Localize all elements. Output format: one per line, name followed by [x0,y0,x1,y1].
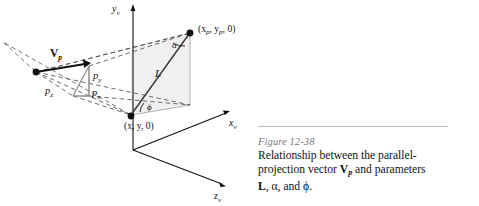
projection-vector-label: Vp [50,47,62,62]
caption-line-2-suffix: and parameters [352,163,425,176]
projection-vector-shaft [36,64,85,72]
z-axis-arrow [219,182,226,187]
figure-page: yv xv zv (xp, yp, 0) (x, y, 0) Vp py px [0,0,479,206]
x-axis-label: xv [228,117,237,131]
length-L-label: L [154,67,161,79]
y-axis-arrow [131,4,136,11]
component-pz-label: pz [44,85,53,99]
caption-text: Relationship between the parallel- proje… [258,149,454,195]
figure-caption: Figure 12-38 Relationship between the pa… [258,126,454,195]
projected-point-label: (xp, yp, 0) [198,23,235,36]
projected-point-dot [187,30,194,37]
caption-line-2-prefix: projection vector [258,163,340,176]
vector-tail-dot [33,69,40,76]
component-py-label: py [92,70,102,84]
component-triangle-hyp [73,66,89,96]
z-axis-line [133,150,222,184]
source-point-label: (x, y, 0) [124,120,154,132]
caption-divider [258,126,448,127]
angle-alpha-label: α [172,40,177,50]
caption-figure-number: Figure 12-38 [258,135,454,148]
caption-vector-symbol: V [340,163,348,176]
angle-phi-label: ϕ [147,102,152,112]
x-axis-line [133,113,226,150]
z-axis-label: zv [213,190,222,204]
y-axis-label: yv [111,3,120,17]
caption-param-L: L [258,180,266,193]
projection-vector-arrowhead [83,60,91,68]
source-point-dot [128,113,135,120]
component-px-label: px [91,87,101,101]
parallel-projection-diagram: yv xv zv (xp, yp, 0) (x, y, 0) Vp py px [0,0,250,206]
caption-line-3-suffix: , α, and ϕ. [266,180,312,193]
caption-line-1: Relationship between the parallel- [258,149,417,162]
